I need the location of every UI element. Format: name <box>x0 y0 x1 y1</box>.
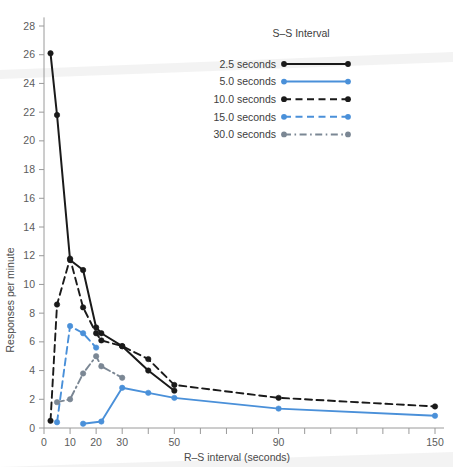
legend-swatch-marker <box>345 96 351 102</box>
data-point <box>99 364 104 369</box>
legend-label-5: 30.0 seconds <box>214 128 276 140</box>
legend-label-4: 15.0 seconds <box>214 111 276 123</box>
series-4 <box>54 323 99 425</box>
data-series-group <box>48 51 438 427</box>
data-point <box>432 413 437 418</box>
data-point <box>48 418 53 423</box>
data-point <box>432 404 437 409</box>
data-point <box>67 397 72 402</box>
legend-swatch-marker <box>281 132 287 138</box>
data-point <box>99 331 104 336</box>
data-point <box>48 51 53 56</box>
legend-swatch-marker <box>281 79 287 85</box>
series-line <box>57 326 96 422</box>
x-tick-label: 20 <box>90 436 102 448</box>
data-point <box>93 354 98 359</box>
data-point <box>67 256 72 261</box>
legend-swatch-marker <box>281 61 287 67</box>
chart-figure: 0246810121416182022242628 01020305090150… <box>0 0 453 467</box>
y-tick-label: 14 <box>23 221 35 233</box>
legend-swatch-marker <box>345 114 351 120</box>
y-tick-label: 0 <box>29 422 35 434</box>
x-tick-label: 10 <box>64 436 76 448</box>
data-point <box>146 368 151 373</box>
data-point <box>120 343 125 348</box>
series-line <box>57 356 122 402</box>
series-2 <box>80 385 437 426</box>
y-axis: 0246810121416182022242628 <box>23 17 44 433</box>
data-point <box>276 395 281 400</box>
data-point <box>93 325 98 330</box>
data-point <box>80 267 85 272</box>
y-axis-title: Responses per minute <box>4 247 16 352</box>
data-point <box>54 420 59 425</box>
y-tick-label: 2 <box>29 393 35 405</box>
data-point <box>80 421 85 426</box>
y-tick-label: 24 <box>23 77 35 89</box>
data-point <box>99 419 104 424</box>
x-axis-title: R–S interval (seconds) <box>184 451 290 463</box>
legend-swatch-marker <box>281 114 287 120</box>
line-chart: 0246810121416182022242628 01020305090150… <box>0 0 453 467</box>
series-line <box>51 259 435 421</box>
data-point <box>54 399 59 404</box>
x-tick-label: 30 <box>116 436 128 448</box>
y-tick-label: 4 <box>29 364 35 376</box>
legend-swatch-marker <box>281 96 287 102</box>
x-tick-label: 50 <box>168 436 180 448</box>
data-point <box>80 331 85 336</box>
y-tick-label: 20 <box>23 134 35 146</box>
y-tick-label: 8 <box>29 307 35 319</box>
chart-legend: S–S Interval 2.5 seconds5.0 seconds10.0 … <box>214 27 351 140</box>
y-tick-label: 16 <box>23 192 35 204</box>
x-tick-label: 90 <box>273 436 285 448</box>
legend-swatch-marker <box>345 132 351 138</box>
y-tick-label: 18 <box>23 163 35 175</box>
data-point <box>54 112 59 117</box>
legend-label-1: 2.5 seconds <box>219 58 276 70</box>
data-point <box>172 382 177 387</box>
series-3 <box>48 256 438 424</box>
data-point <box>146 356 151 361</box>
series-line <box>83 388 435 424</box>
legend-swatch-marker <box>345 61 351 67</box>
data-point <box>99 338 104 343</box>
legend-label-3: 10.0 seconds <box>214 93 276 105</box>
data-point <box>67 323 72 328</box>
data-point <box>146 390 151 395</box>
x-tick-label: 0 <box>41 436 47 448</box>
x-axis: 01020305090150 <box>41 428 444 448</box>
data-point <box>54 302 59 307</box>
data-point <box>276 406 281 411</box>
data-point <box>172 395 177 400</box>
data-point <box>120 385 125 390</box>
data-point <box>93 345 98 350</box>
y-tick-label: 6 <box>29 335 35 347</box>
legend-title: S–S Interval <box>272 27 329 39</box>
legend-swatch-marker <box>345 79 351 85</box>
y-tick-label: 10 <box>23 278 35 290</box>
y-tick-label: 22 <box>23 106 35 118</box>
legend-label-2: 5.0 seconds <box>219 75 276 87</box>
data-point <box>120 375 125 380</box>
data-point <box>172 388 177 393</box>
data-point <box>93 331 98 336</box>
y-tick-label: 26 <box>23 48 35 60</box>
data-point <box>80 305 85 310</box>
y-tick-label: 28 <box>23 20 35 32</box>
x-tick-label: 150 <box>426 436 444 448</box>
y-tick-label: 12 <box>23 249 35 261</box>
data-point <box>80 371 85 376</box>
